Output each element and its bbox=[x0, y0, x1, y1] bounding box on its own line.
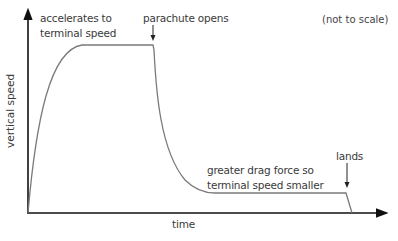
annotation-line: greater drag force so bbox=[207, 163, 324, 178]
annotation-line: terminal speed bbox=[40, 26, 116, 41]
y-axis-label: vertical speed bbox=[4, 74, 16, 148]
annotation-greater-drag: greater drag force so terminal speed sma… bbox=[207, 163, 324, 193]
annotation-accelerates: accelerates to terminal speed bbox=[40, 11, 116, 41]
not-to-scale-note: (not to scale) bbox=[322, 14, 388, 25]
annotation-line: accelerates to bbox=[40, 11, 116, 26]
annotation-lands: lands bbox=[336, 149, 363, 164]
annotation-line: terminal speed smaller bbox=[207, 178, 324, 193]
x-axis-label: time bbox=[172, 217, 195, 232]
annotation-parachute-opens: parachute opens bbox=[143, 11, 229, 26]
